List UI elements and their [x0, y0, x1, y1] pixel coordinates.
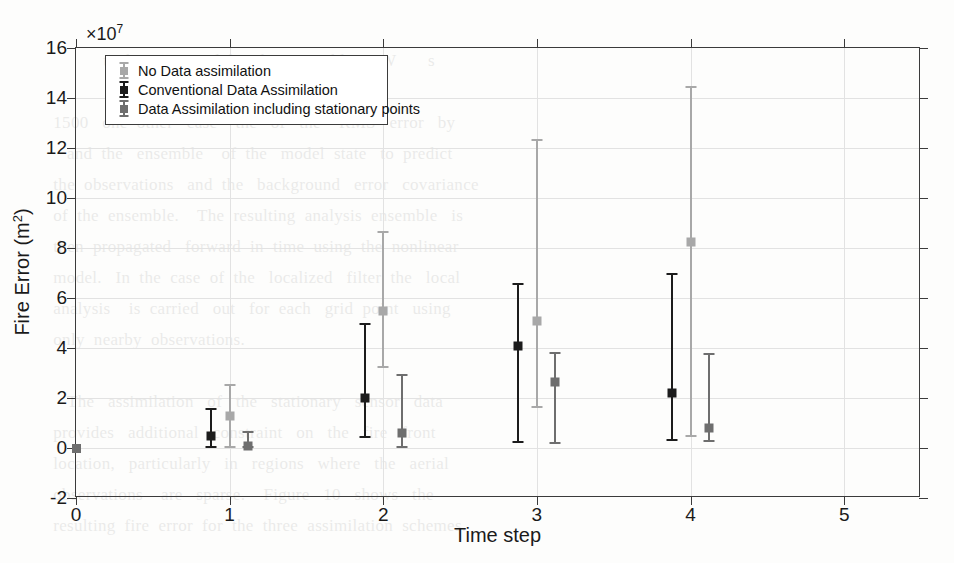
- y-axis-tick-right: [919, 248, 928, 249]
- error-bar-cap-upper: [550, 352, 561, 354]
- y-axis-tick: [67, 348, 76, 349]
- y-axis-tick: [67, 398, 76, 399]
- x-axis-tick-label: 3: [532, 504, 543, 526]
- error-bar: [699, 353, 719, 442]
- legend-error-bar-icon: [113, 61, 135, 80]
- error-bar: [527, 139, 547, 408]
- x-axis-tick-label: 1: [224, 504, 235, 526]
- y-axis-tick-label: 12: [46, 137, 67, 159]
- legend-cap-lower: [120, 77, 129, 79]
- data-point-marker: [244, 441, 253, 450]
- legend-label: No Data assimilation: [138, 63, 271, 79]
- legend-marker: [120, 105, 128, 113]
- y-axis-tick-right: [919, 48, 928, 49]
- y-axis-tick-right: [919, 348, 928, 349]
- error-bar-cap-upper: [513, 283, 524, 285]
- error-bar-stem: [364, 323, 366, 438]
- y-axis-tick-right: [919, 498, 928, 499]
- y-axis-tick-label: 4: [56, 337, 67, 359]
- legend-cap-upper: [120, 62, 129, 64]
- data-point-marker: [360, 394, 369, 403]
- error-bar: [220, 384, 240, 448]
- error-bar-cap-upper: [667, 273, 678, 275]
- error-bar-cap-upper: [378, 231, 389, 233]
- error-bar-stem: [210, 408, 212, 448]
- y-axis-title-text: Fire Error (m2): [10, 208, 35, 335]
- x-axis-tick-top: [844, 39, 845, 48]
- y-axis-tick-label: 2: [56, 387, 67, 409]
- data-point-marker: [704, 424, 713, 433]
- error-bar: [238, 431, 258, 449]
- x-axis-title: Time step: [75, 524, 920, 547]
- error-bar-cap-upper: [685, 86, 696, 88]
- gridline-horizontal: [76, 348, 919, 349]
- x-axis-tick-label: 4: [685, 504, 696, 526]
- error-bar-cap-lower: [359, 436, 370, 438]
- data-point-marker: [686, 237, 695, 246]
- y-axis-tick-label: 16: [46, 37, 67, 59]
- error-bar-cap-lower: [378, 366, 389, 368]
- legend-entry[interactable]: Data Assimilation including stationary p…: [113, 99, 380, 118]
- data-point-marker: [551, 377, 560, 386]
- error-bar-stem: [690, 86, 692, 437]
- error-bar-cap-lower: [550, 442, 561, 444]
- data-point-marker: [207, 431, 216, 440]
- y-axis-tick-right: [919, 298, 928, 299]
- error-bar-cap-lower: [513, 441, 524, 443]
- legend-error-bar-icon: [113, 99, 135, 118]
- error-bar-cap-upper: [206, 408, 217, 410]
- x-axis-tick-top: [76, 39, 77, 48]
- data-point-marker: [225, 411, 234, 420]
- y-axis-tick-label: -2: [50, 487, 67, 509]
- legend-entry[interactable]: No Data assimilation: [113, 61, 380, 80]
- error-bar-cap-lower: [531, 406, 542, 408]
- legend-error-bar-icon: [113, 80, 135, 99]
- x-axis-tick-label: 5: [839, 504, 850, 526]
- y-axis-tick: [67, 298, 76, 299]
- gridline-horizontal: [76, 448, 919, 449]
- legend-label: Conventional Data Assimilation: [138, 82, 338, 98]
- x-axis-tick-label: 0: [71, 504, 82, 526]
- error-bar-stem: [382, 231, 384, 369]
- x-axis-tick-top: [230, 39, 231, 48]
- y-axis-tick: [67, 498, 76, 499]
- gridline-horizontal: [76, 148, 919, 149]
- legend-cap-lower: [120, 115, 129, 117]
- error-bar-stem: [517, 283, 519, 443]
- x-axis-tick-label: 2: [378, 504, 389, 526]
- y-axis-title: Fire Error (m2): [9, 47, 35, 497]
- error-bar-cap-lower: [685, 435, 696, 437]
- error-bar-stem: [536, 139, 538, 408]
- error-bar: [373, 231, 393, 369]
- y-axis-unit-exponent: 2: [10, 215, 25, 222]
- y-axis-tick-label: 10: [46, 187, 67, 209]
- y-axis-tick-label: 6: [56, 287, 67, 309]
- x-axis-tick-top: [383, 39, 384, 48]
- y-axis-tick: [67, 198, 76, 199]
- error-bar-cap-lower: [224, 446, 235, 448]
- error-bar-cap-upper: [243, 431, 254, 433]
- error-bar: [201, 408, 221, 448]
- error-bar-cap-upper: [531, 139, 542, 141]
- gridline-horizontal: [76, 198, 919, 199]
- legend-cap-lower: [120, 96, 129, 98]
- error-bar-cap-upper: [703, 353, 714, 355]
- y-axis-tick: [67, 48, 76, 49]
- legend-label: Data Assimilation including stationary p…: [138, 101, 420, 117]
- legend-cap-upper: [120, 100, 129, 102]
- error-bar-cap-lower: [703, 440, 714, 442]
- x-axis-tick-top: [691, 39, 692, 48]
- error-bar-stem: [554, 352, 556, 445]
- y-axis-tick-right: [919, 448, 928, 449]
- y-axis-tick-right: [919, 398, 928, 399]
- error-bar-cap-upper: [396, 374, 407, 376]
- legend-entry[interactable]: Conventional Data Assimilation: [113, 80, 380, 99]
- error-bar: [392, 374, 412, 448]
- gridline-horizontal: [76, 248, 919, 249]
- error-bar: [545, 352, 565, 445]
- gridline-horizontal: [76, 298, 919, 299]
- error-bar-cap-lower: [667, 439, 678, 441]
- error-bar-cap-upper: [224, 384, 235, 386]
- y-axis-tick: [67, 248, 76, 249]
- origin-data-point-marker: [72, 444, 81, 453]
